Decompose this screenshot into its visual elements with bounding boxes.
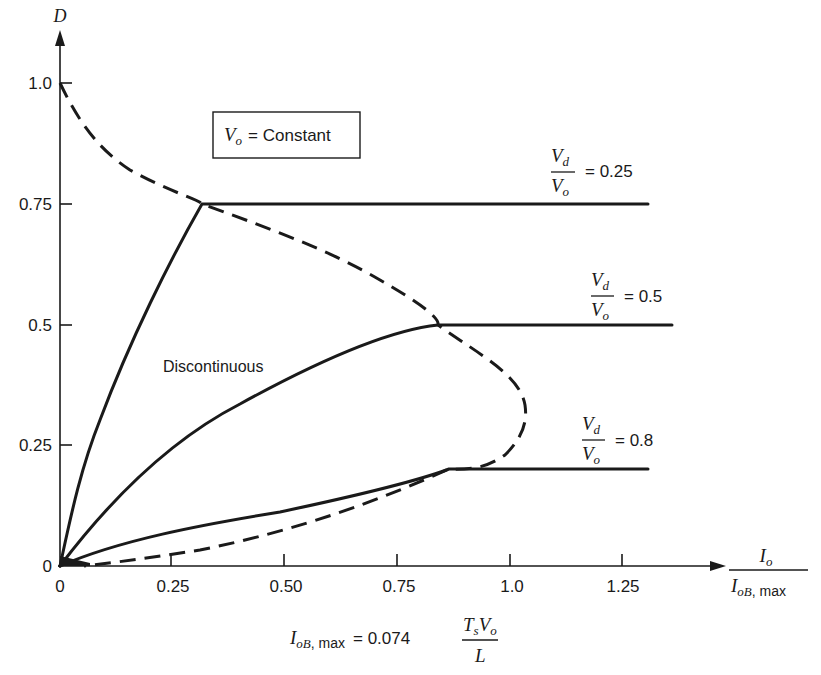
series-vd-vo-0-5 xyxy=(60,325,672,566)
annotation-box-text: Vo= Constant xyxy=(224,124,331,148)
x-axis-title-numerator: Io xyxy=(759,545,773,569)
formula-numerator: TsVo xyxy=(463,614,497,638)
legend-denominator: Vo xyxy=(551,175,570,199)
legend-denominator: Vo xyxy=(582,443,601,467)
legend-value: = 0.8 xyxy=(615,431,653,450)
x-tick-label: 0 xyxy=(55,577,64,596)
x-axis-title: Io IoB, max xyxy=(729,545,808,599)
y-axis-title: D xyxy=(53,6,67,26)
legend-numerator: Vd xyxy=(582,413,601,437)
y-tick-label: 1.0 xyxy=(28,74,52,93)
y-tick-label: 0.75 xyxy=(19,195,52,214)
formula-denominator: L xyxy=(474,645,486,666)
x-tick-label: 1.0 xyxy=(500,577,524,596)
x-tick-label: 1.25 xyxy=(606,577,639,596)
series-vd-vo-0-25 xyxy=(60,204,648,566)
legend-numerator: Vd xyxy=(591,269,610,293)
legend-denominator: Vo xyxy=(591,299,610,323)
formula-lhs: IoB, max= 0.074 xyxy=(289,627,410,651)
y-tick-labels: 1.0 0.75 0.5 0.25 0 xyxy=(19,74,52,576)
legend-label-0-5: Vd Vo = 0.5 xyxy=(591,269,662,323)
chart-canvas: 1.0 0.75 0.5 0.25 0 0 0.25 0.50 0.75 1.0… xyxy=(0,0,821,675)
legend-numerator: Vd xyxy=(551,145,570,169)
x-tick-label: 0.25 xyxy=(156,577,189,596)
footnote-formula: IoB, max= 0.074 TsVo L xyxy=(289,614,498,666)
x-tick-label: 0.75 xyxy=(382,577,415,596)
legend-label-0-25: Vd Vo = 0.25 xyxy=(551,145,633,199)
x-axis-arrow-icon xyxy=(710,561,726,571)
y-tick-label: 0.25 xyxy=(19,436,52,455)
x-tick-labels: 0 0.25 0.50 0.75 1.0 1.25 xyxy=(55,577,639,596)
y-tick-label: 0.5 xyxy=(28,316,52,335)
vo-constant-box: Vo= Constant xyxy=(213,112,360,158)
legend-value: = 0.5 xyxy=(624,287,662,306)
y-axis-arrow-icon xyxy=(55,30,65,46)
x-tick-label: 0.50 xyxy=(269,577,302,596)
discontinuous-label: Discontinuous xyxy=(163,358,264,375)
legend-value: = 0.25 xyxy=(585,162,633,181)
series-vd-vo-0-8 xyxy=(60,469,648,566)
x-axis-title-denominator: IoB, max xyxy=(730,575,786,599)
legend-label-0-8: Vd Vo = 0.8 xyxy=(582,413,653,467)
y-tick-label: 0 xyxy=(43,557,52,576)
